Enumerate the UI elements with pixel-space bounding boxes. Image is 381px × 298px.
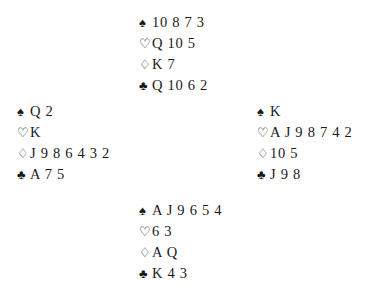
hand-north-spades-cards: 10 8 7 3 [152, 12, 205, 33]
hand-north-diamonds-row: ♢K 7 [139, 54, 208, 75]
hand-south-hearts-row: ♡6 3 [139, 221, 222, 242]
hand-east-spades-cards: K [270, 101, 281, 122]
club-icon: ♣ [139, 263, 152, 284]
hand-west-clubs-cards: A 7 5 [30, 164, 65, 185]
diamond-icon: ♢ [139, 54, 152, 75]
hand-west-clubs-row: ♣A 7 5 [17, 164, 110, 185]
diamond-icon: ♢ [17, 143, 30, 164]
hand-south: ♠A J 9 6 5 4 ♡6 3 ♢A Q ♣K 4 3 [139, 200, 222, 284]
hand-north-spades-row: ♠10 8 7 3 [139, 12, 208, 33]
club-icon: ♣ [139, 75, 152, 96]
hand-south-clubs-row: ♣K 4 3 [139, 263, 222, 284]
hand-east-spades-row: ♠K [257, 101, 352, 122]
diamond-icon: ♢ [139, 242, 152, 263]
heart-icon: ♡ [17, 122, 30, 143]
hand-east-hearts-cards: A J 9 8 7 4 2 [270, 122, 352, 143]
hand-south-diamonds-cards: A Q [152, 242, 178, 263]
hand-east-diamonds-row: ♢10 5 [257, 143, 352, 164]
hand-north-hearts-row: ♡Q 10 5 [139, 33, 208, 54]
hand-west-diamonds-row: ♢J 9 8 6 4 3 2 [17, 143, 110, 164]
heart-icon: ♡ [139, 221, 152, 242]
hand-south-diamonds-row: ♢A Q [139, 242, 222, 263]
hand-west: ♠Q 2 ♡K ♢J 9 8 6 4 3 2 ♣A 7 5 [17, 101, 110, 185]
hand-south-spades-row: ♠A J 9 6 5 4 [139, 200, 222, 221]
spade-icon: ♠ [139, 200, 152, 221]
club-icon: ♣ [257, 164, 270, 185]
hand-west-spades-cards: Q 2 [30, 101, 53, 122]
hand-north-clubs-row: ♣Q 10 6 2 [139, 75, 208, 96]
hand-east: ♠K ♡A J 9 8 7 4 2 ♢10 5 ♣J 9 8 [257, 101, 352, 185]
hand-east-clubs-row: ♣J 9 8 [257, 164, 352, 185]
heart-icon: ♡ [139, 33, 152, 54]
hand-west-hearts-row: ♡K [17, 122, 110, 143]
diamond-icon: ♢ [257, 143, 270, 164]
club-icon: ♣ [17, 164, 30, 185]
spade-icon: ♠ [139, 12, 152, 33]
hand-west-diamonds-cards: J 9 8 6 4 3 2 [30, 143, 110, 164]
bridge-deal-diagram: ♠10 8 7 3 ♡Q 10 5 ♢K 7 ♣Q 10 6 2 ♠Q 2 ♡K… [0, 0, 381, 298]
hand-west-spades-row: ♠Q 2 [17, 101, 110, 122]
hand-east-diamonds-cards: 10 5 [270, 143, 298, 164]
hand-south-spades-cards: A J 9 6 5 4 [152, 200, 222, 221]
hand-west-hearts-cards: K [30, 122, 41, 143]
hand-north-clubs-cards: Q 10 6 2 [152, 75, 208, 96]
spade-icon: ♠ [257, 101, 270, 122]
heart-icon: ♡ [257, 122, 270, 143]
hand-south-hearts-cards: 6 3 [152, 221, 172, 242]
hand-north: ♠10 8 7 3 ♡Q 10 5 ♢K 7 ♣Q 10 6 2 [139, 12, 208, 96]
hand-east-clubs-cards: J 9 8 [270, 164, 301, 185]
hand-east-hearts-row: ♡A J 9 8 7 4 2 [257, 122, 352, 143]
hand-south-clubs-cards: K 4 3 [152, 263, 188, 284]
hand-north-hearts-cards: Q 10 5 [152, 33, 196, 54]
hand-north-diamonds-cards: K 7 [152, 54, 175, 75]
spade-icon: ♠ [17, 101, 30, 122]
